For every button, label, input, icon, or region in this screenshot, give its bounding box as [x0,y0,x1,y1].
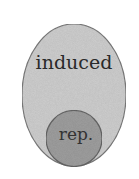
nested-set-diagram: induced rep. [0,0,139,179]
diagram-canvas: induced rep. [0,0,139,179]
inner-set-label: rep. [59,124,93,144]
outer-set-label: induced [36,51,113,73]
